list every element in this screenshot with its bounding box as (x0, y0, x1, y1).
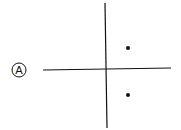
x-axis (43, 68, 171, 70)
option-label-text: A (15, 64, 23, 77)
y-axis (105, 3, 107, 128)
option-label-badge: A (12, 63, 26, 77)
point-quadrant-IV (126, 93, 130, 97)
points-layer (126, 46, 130, 97)
coordinate-diagram: A (0, 0, 181, 130)
point-quadrant-I (126, 46, 130, 50)
